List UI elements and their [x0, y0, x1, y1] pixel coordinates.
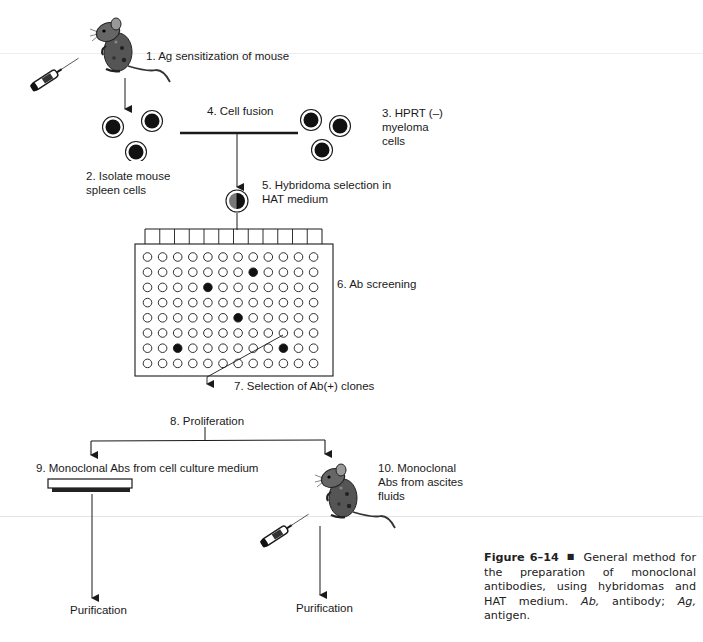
myeloma-cells [301, 110, 351, 161]
well [294, 268, 303, 277]
positive-well [249, 268, 258, 277]
well [189, 359, 198, 368]
well [294, 253, 303, 262]
well [279, 359, 288, 368]
step-3-label: 3. HPRT (–) myeloma cells [382, 106, 443, 148]
well [173, 314, 182, 323]
well [173, 359, 182, 368]
figure-caption: Figure 6–14 ■ General method for the pre… [484, 550, 696, 624]
well [249, 314, 258, 323]
well [249, 298, 258, 307]
well [309, 329, 318, 338]
well [189, 314, 198, 323]
well [249, 329, 258, 338]
well [264, 329, 273, 338]
step-2-line-2: spleen cells [86, 183, 170, 197]
well [219, 253, 228, 262]
step-2-line-1: 2. Isolate mouse [86, 169, 170, 183]
step-1-label: 1. Ag sensitization of mouse [146, 49, 289, 63]
step-5-line-2: HAT medium [262, 192, 391, 206]
positive-well [204, 283, 213, 292]
well [204, 314, 213, 323]
well [219, 298, 228, 307]
well [234, 329, 243, 338]
step-9-label: 9. Monoclonal Abs from cell culture medi… [36, 461, 258, 475]
well [294, 314, 303, 323]
well [173, 298, 182, 307]
well [294, 359, 303, 368]
well [204, 253, 213, 262]
well [189, 253, 198, 262]
well [219, 268, 228, 277]
well [204, 298, 213, 307]
well [158, 359, 167, 368]
well [264, 253, 273, 262]
well [309, 359, 318, 368]
well [264, 314, 273, 323]
well [249, 359, 258, 368]
figure-number: Figure 6–14 [484, 551, 559, 564]
well [309, 298, 318, 307]
well [158, 268, 167, 277]
well [234, 344, 243, 353]
well [309, 314, 318, 323]
well [189, 344, 198, 353]
well [158, 344, 167, 353]
well [294, 298, 303, 307]
well [234, 268, 243, 277]
monoclonal-antibody-diagram [0, 0, 703, 642]
well [158, 314, 167, 323]
well [264, 298, 273, 307]
well [249, 253, 258, 262]
well [173, 253, 182, 262]
well [219, 314, 228, 323]
well [189, 298, 198, 307]
step-3-line-2: myeloma [382, 120, 443, 134]
well-plate [135, 229, 333, 376]
well [143, 298, 152, 307]
caption-abbr-ag: Ag, [678, 595, 696, 608]
step-10-line-3: fluids [378, 489, 463, 503]
well [189, 329, 198, 338]
well [279, 298, 288, 307]
positive-well [173, 344, 182, 353]
well [173, 268, 182, 277]
purification-left-label: Purification [70, 603, 127, 617]
step-4-label: 4. Cell fusion [207, 104, 273, 118]
well [158, 283, 167, 292]
step-5-label: 5. Hybridoma selection in HAT medium [262, 178, 391, 206]
well [309, 268, 318, 277]
step-6-label: 6. Ab screening [337, 277, 416, 291]
step-7-label: 7. Selection of Ab(+) clones [234, 379, 374, 393]
well [158, 298, 167, 307]
caption-separator: ■ [567, 552, 576, 561]
caption-def-ab: antibody; [612, 595, 665, 608]
step-2-label: 2. Isolate mouse spleen cells [86, 169, 170, 197]
well [249, 283, 258, 292]
well [279, 314, 288, 323]
well [234, 298, 243, 307]
culture-dish-icon [48, 479, 132, 492]
well [204, 329, 213, 338]
well [234, 283, 243, 292]
positive-well [279, 344, 288, 353]
well [234, 253, 243, 262]
well [219, 283, 228, 292]
well [234, 359, 243, 368]
well [204, 359, 213, 368]
step-8-label: 8. Proliferation [170, 414, 244, 428]
step-3-line-1: 3. HPRT (–) [382, 106, 443, 120]
well [143, 283, 152, 292]
caption-abbr-ab: Ab, [581, 595, 599, 608]
well [204, 268, 213, 277]
well [173, 283, 182, 292]
well [279, 268, 288, 277]
well [219, 344, 228, 353]
proliferation-bar [91, 440, 325, 441]
well [279, 253, 288, 262]
well [143, 359, 152, 368]
well [219, 329, 228, 338]
well [143, 268, 152, 277]
well [294, 344, 303, 353]
well [309, 283, 318, 292]
